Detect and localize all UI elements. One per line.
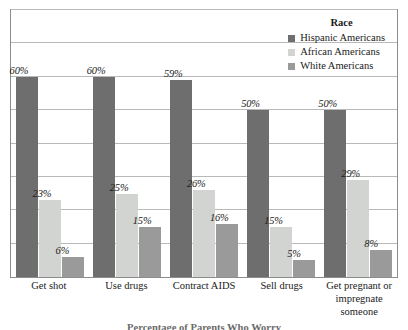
bar[interactable]: 26%	[193, 190, 215, 277]
legend-entry[interactable]: Hispanic Americans	[288, 31, 385, 44]
category-axis: Get shotUse drugsContract AIDSSell drugs…	[10, 280, 398, 318]
legend-swatch-icon	[288, 35, 295, 42]
bar-value-label: 8%	[364, 238, 404, 249]
legend-entry[interactable]: African Americans	[288, 45, 385, 58]
bar-group: 59%26%16%	[169, 10, 238, 277]
legend-label: Hispanic Americans	[300, 31, 385, 44]
legend-entries: Hispanic AmericansAfrican AmericansWhite…	[288, 31, 385, 72]
figure-caption: Percentage of Parents Who Worry	[0, 322, 408, 330]
bar-value-label: 6%	[56, 245, 96, 256]
bar-group: 60%23%6%	[15, 10, 84, 277]
bar[interactable]: 25%	[116, 194, 138, 277]
bar-slot: 15%	[139, 10, 161, 277]
category-label: Sell drugs	[244, 280, 320, 293]
plot-frame: 60%23%6%60%25%15%59%26%16%50%15%5%50%29%…	[10, 9, 398, 278]
legend-label: White Americans	[300, 59, 373, 72]
bar-slot: 25%	[116, 10, 138, 277]
chart-legend: Race Hispanic AmericansAfrican Americans…	[288, 16, 385, 73]
bar-slot: 6%	[62, 10, 84, 277]
bar[interactable]: 60%	[16, 77, 38, 277]
legend-entry[interactable]: White Americans	[288, 59, 385, 72]
bar-slot: 16%	[216, 10, 238, 277]
bar-slot: 60%	[16, 10, 38, 277]
bar[interactable]: 23%	[39, 200, 61, 277]
bar[interactable]: 5%	[293, 260, 315, 277]
bar[interactable]: 8%	[370, 250, 392, 277]
category-label: Get shot	[11, 280, 87, 293]
bar[interactable]: 50%	[247, 110, 269, 277]
bar-chart-figure: 60%23%6%60%25%15%59%26%16%50%15%5%50%29%…	[0, 0, 408, 330]
legend-label: African Americans	[300, 45, 380, 58]
bar[interactable]: 15%	[139, 227, 161, 277]
bar[interactable]: 6%	[62, 257, 84, 277]
bar-slot: 26%	[193, 10, 215, 277]
legend-swatch-icon	[288, 63, 295, 70]
legend-swatch-icon	[288, 49, 295, 56]
bar-slot: 50%	[247, 10, 269, 277]
bar-value-label: 16%	[210, 212, 250, 223]
category-label: Contract AIDS	[166, 280, 242, 293]
legend-title: Race	[288, 16, 385, 29]
bar-slot: 59%	[170, 10, 192, 277]
bar[interactable]: 29%	[347, 180, 369, 277]
bar-value-label: 5%	[287, 248, 327, 259]
category-label: Use drugs	[88, 280, 164, 293]
bar[interactable]: 60%	[93, 77, 115, 277]
bar[interactable]: 50%	[324, 110, 346, 277]
bar-slot: 23%	[39, 10, 61, 277]
bar-group: 60%25%15%	[92, 10, 161, 277]
bar-value-label: 15%	[133, 215, 173, 226]
category-label: Get pregnant or impregnate someone	[321, 280, 397, 318]
bar-slot: 60%	[93, 10, 115, 277]
bar[interactable]: 16%	[216, 224, 238, 277]
